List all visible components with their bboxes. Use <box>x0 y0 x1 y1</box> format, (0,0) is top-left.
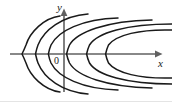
y-axis-label: y <box>57 2 62 13</box>
x-axis-label: x <box>158 58 163 69</box>
origin-label: 0 <box>54 56 59 66</box>
parabola-family-diagram <box>0 0 172 108</box>
figure-container: y x 0 <box>0 0 172 108</box>
